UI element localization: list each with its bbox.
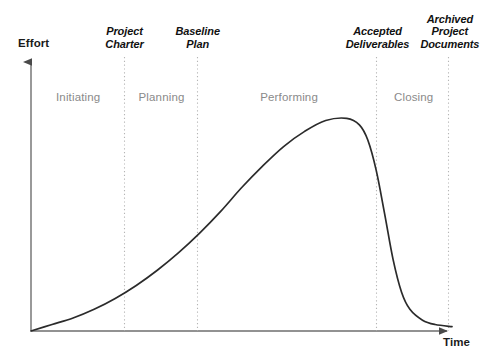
milestone-label-baseline-plan: BaselinePlan [175,25,219,50]
milestone-label-accepted-deliverables: AcceptedDeliverables [346,25,410,50]
milestone-label-line: Deliverables [346,38,410,51]
effort-vs-time-chart: Effort Time ProjectCharterBaselinePlanAc… [0,0,494,361]
chart-canvas [0,0,494,361]
milestone-label-line: Baseline [175,25,219,38]
milestone-label-line: Documents [420,38,479,51]
milestone-label-project-charter: ProjectCharter [105,25,143,50]
milestone-label-line: Accepted [346,25,410,38]
milestone-label-line: Archived [420,13,479,26]
milestone-label-line: Project [105,25,143,38]
phase-label-planning: Planning [139,91,185,103]
milestone-label-line: Plan [175,38,219,51]
y-axis-label: Effort [18,37,49,49]
phase-label-initiating: Initiating [56,91,100,103]
milestone-label-line: Project [420,25,479,38]
effort-curve [31,118,452,331]
x-axis-label: Time [443,336,470,348]
phase-label-performing: Performing [260,91,318,103]
milestone-label-line: Charter [105,38,143,51]
milestone-label-archived-project-documents: ArchivedProjectDocuments [420,13,479,51]
phase-label-closing: Closing [394,91,433,103]
